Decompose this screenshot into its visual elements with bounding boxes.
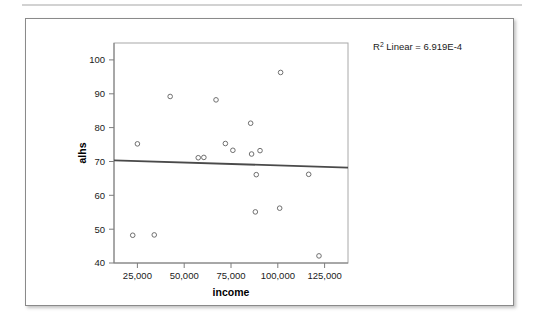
x-ticks [137,263,324,268]
plot-frame [114,43,348,263]
plot-background [114,43,348,263]
r-squared-rest: Linear = 6.919E-4 [384,41,462,52]
x-axis-title: income [213,286,250,298]
r-squared-annotation: R2 Linear = 6.919E-4 [373,41,462,53]
y-tick-label: 50 [94,224,105,235]
plot-svg: 40 50 60 70 80 90 100 25,000 50,000 75,0… [26,19,515,307]
y-axis-title: alhs [76,142,88,163]
x-tick-label: 100,000 [261,270,295,281]
y-tick-label: 70 [94,156,105,167]
scatter-chart: 40 50 60 70 80 90 100 25,000 50,000 75,0… [26,19,515,307]
y-ticks [109,60,114,263]
y-tick-label: 90 [94,88,105,99]
y-tick-label: 60 [94,190,105,201]
y-tick-label: 100 [89,54,105,65]
y-tick-labels: 40 50 60 70 80 90 100 [89,54,105,268]
x-tick-labels: 25,000 50,000 75,000 100,000 125,000 [123,270,342,281]
x-tick-label: 75,000 [216,270,245,281]
x-tick-label: 25,000 [123,270,152,281]
x-tick-label: 125,000 [307,270,341,281]
x-tick-label: 50,000 [170,270,199,281]
y-tick-label: 80 [94,122,105,133]
top-divider [22,4,522,6]
y-tick-label: 40 [94,257,105,268]
figure-card: 40 50 60 70 80 90 100 25,000 50,000 75,0… [25,18,514,306]
